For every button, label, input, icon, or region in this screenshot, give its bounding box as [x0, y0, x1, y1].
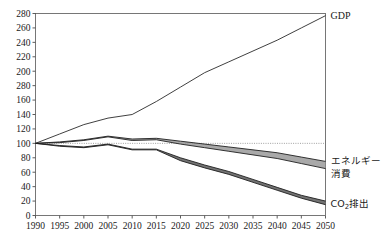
x-tick-label: 2045 [292, 221, 311, 231]
x-tick-label: 2025 [195, 221, 214, 231]
x-tick-label: 2050 [316, 221, 335, 231]
y-tick-label: 280 [16, 9, 31, 19]
y-tick-label: 260 [16, 23, 31, 33]
x-tick-label: 2030 [219, 221, 238, 231]
x-tick-label: 2005 [99, 221, 118, 231]
x-tick-label: 2015 [147, 221, 166, 231]
y-tick-label: 40 [21, 182, 31, 192]
y-tick-label: 160 [16, 95, 31, 105]
x-tick-label: 2040 [268, 221, 287, 231]
x-tick-label: 2010 [123, 221, 142, 231]
y-tick-label: 60 [21, 168, 31, 178]
series-label-energy-line2: 消費 [331, 168, 351, 179]
y-tick-label: 20 [21, 196, 31, 206]
y-tick-label: 200 [16, 67, 31, 77]
y-tick-label: 0 [26, 211, 31, 221]
y-tick-label: 220 [16, 52, 31, 62]
x-tick-label: 2035 [244, 221, 263, 231]
x-tick-label: 2020 [171, 221, 190, 231]
y-tick-label: 120 [16, 124, 31, 134]
x-tick-label: 1995 [50, 221, 69, 231]
x-tick-label: 2000 [74, 221, 93, 231]
y-tick-label: 80 [21, 153, 31, 163]
y-tick-label: 240 [16, 38, 31, 48]
chart-container: 280260240220200280160140120100806040200 … [0, 0, 383, 241]
series-label-energy-line1: エネルギー [331, 155, 381, 166]
x-tick-label: 1990 [26, 221, 45, 231]
y-tick-label: 100 [16, 139, 31, 149]
y-tick-label: 140 [16, 110, 31, 120]
index-trend-line-chart: 280260240220200280160140120100806040200 … [0, 0, 383, 241]
series-label-gdp: GDP [331, 10, 351, 21]
y-tick-label: 280 [16, 81, 31, 91]
